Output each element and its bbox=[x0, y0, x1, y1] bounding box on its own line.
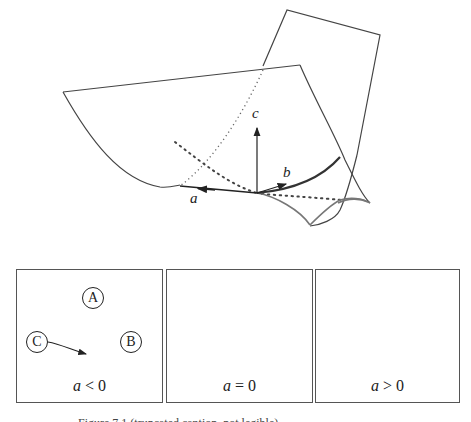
region-marker-c: C bbox=[26, 331, 48, 353]
hidden-lines bbox=[180, 70, 263, 186]
axis-label-a: a bbox=[190, 190, 198, 207]
panel-label-a-zero: a = 0 bbox=[167, 377, 312, 395]
region-marker-a: A bbox=[82, 287, 104, 309]
panel-a-positive: a > 0 bbox=[315, 269, 460, 403]
cusp-curves bbox=[257, 193, 370, 225]
panel-label-a-positive: a > 0 bbox=[316, 377, 459, 395]
dotted-fold-curve bbox=[175, 142, 342, 200]
axis-label-b: b bbox=[283, 164, 291, 181]
fold-curve bbox=[257, 157, 340, 193]
region-marker-b: B bbox=[120, 331, 142, 353]
figure-caption-truncated: Figure 7.1 (truncated caption, not legib… bbox=[78, 414, 278, 422]
panel-a-zero: a = 0 bbox=[166, 269, 313, 403]
lower-main-sheet bbox=[63, 65, 370, 203]
axis-label-c: c bbox=[252, 105, 259, 122]
panel-label-a-negative: a < 0 bbox=[17, 377, 162, 395]
